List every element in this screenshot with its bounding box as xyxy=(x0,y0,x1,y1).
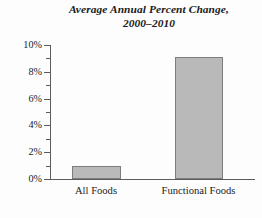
y-tick-label-4: 8% xyxy=(0,67,42,77)
bar-functional-foods[interactable] xyxy=(175,57,223,179)
y-tick-label-0: 0% xyxy=(0,174,42,184)
y-tick-label-3: 6% xyxy=(0,94,42,104)
y-tick-label-1: 2% xyxy=(0,147,42,157)
bar-all-foods[interactable] xyxy=(72,166,121,179)
y-tick-major-0 xyxy=(44,179,51,180)
y-tick-major-1 xyxy=(44,152,51,153)
y-tick-label-2: 4% xyxy=(0,120,42,130)
y-tick-major-5 xyxy=(44,45,51,46)
y-tick-major-2 xyxy=(44,125,51,126)
x-axis-label-functional-foods: Functional Foods xyxy=(142,185,255,197)
y-tick-minor-1 xyxy=(46,166,51,167)
y-tick-label-5: 10% xyxy=(0,40,42,50)
x-axis-label-all-foods: All Foods xyxy=(50,185,142,197)
y-tick-major-3 xyxy=(44,99,51,100)
y-tick-minor-7 xyxy=(46,85,51,86)
x-axis-line xyxy=(50,179,255,180)
y-tick-minor-9 xyxy=(46,58,51,59)
y-tick-minor-5 xyxy=(46,112,51,113)
y-tick-major-4 xyxy=(44,72,51,73)
y-tick-minor-3 xyxy=(46,139,51,140)
plot-area: 0% 2% 4% 6% 8% 10% All Foods Functional … xyxy=(0,0,262,218)
chart-figure: Average Annual Percent Change, 2000–2010… xyxy=(0,0,262,218)
